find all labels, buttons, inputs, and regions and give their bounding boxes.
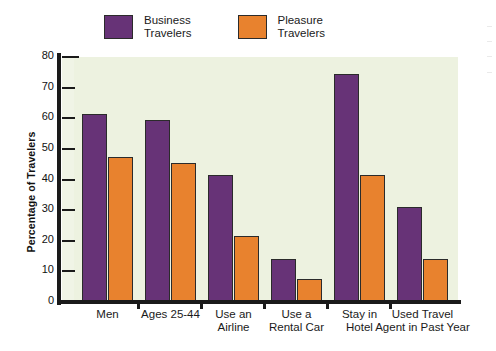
bar	[82, 114, 107, 302]
y-tick-label-40: 40	[24, 172, 54, 184]
bar	[297, 279, 322, 302]
bar	[145, 120, 170, 302]
y-tick-label-50: 50	[24, 141, 54, 153]
bar	[397, 207, 422, 302]
plot-area	[62, 57, 458, 302]
legend-label-business: Business Travelers	[144, 14, 192, 39]
y-tick-label-70: 70	[24, 80, 54, 92]
y-tick-60	[62, 117, 75, 119]
bar	[108, 157, 133, 302]
bar	[360, 175, 385, 302]
scan-artifact	[487, 41, 492, 42]
y-tick-label-30: 30	[24, 202, 54, 214]
x-axis-line	[57, 300, 461, 304]
y-tick-10	[62, 270, 75, 272]
x-axis-label: Used Travel Agent in Past Year	[368, 308, 478, 334]
y-tick-label-10: 10	[24, 263, 54, 275]
y-tick-label-20: 20	[24, 233, 54, 245]
y-tick-70	[62, 87, 75, 89]
y-tick-50	[62, 148, 75, 150]
y-tick-30	[62, 209, 75, 211]
legend-item-pleasure: Pleasure Travelers	[238, 14, 326, 39]
scan-artifact	[487, 26, 492, 27]
scan-artifact	[487, 72, 492, 73]
chart-legend: Business Travelers Pleasure Travelers	[104, 14, 325, 39]
y-axis-title: Percentage of Travelers	[25, 97, 37, 287]
bar	[271, 259, 296, 302]
legend-label-pleasure: Pleasure Travelers	[278, 14, 326, 39]
y-tick-0	[62, 301, 79, 303]
y-tick-40	[62, 179, 75, 181]
y-axis-line	[57, 53, 61, 305]
y-tick-20	[62, 240, 75, 242]
legend-item-business: Business Travelers	[104, 14, 192, 39]
bar	[423, 259, 448, 302]
y-tick-label-80: 80	[24, 49, 54, 61]
scan-artifact	[487, 56, 492, 57]
bar-chart-figure: Business Travelers Pleasure Travelers Pe…	[0, 0, 496, 351]
bar	[208, 175, 233, 302]
bar	[334, 74, 359, 302]
y-tick-80	[62, 56, 79, 58]
y-tick-label-0: 0	[24, 294, 54, 306]
legend-swatch-pleasure	[238, 15, 267, 39]
bar	[234, 236, 259, 302]
y-tick-label-60: 60	[24, 110, 54, 122]
bar	[171, 163, 196, 302]
legend-swatch-business	[104, 15, 133, 39]
